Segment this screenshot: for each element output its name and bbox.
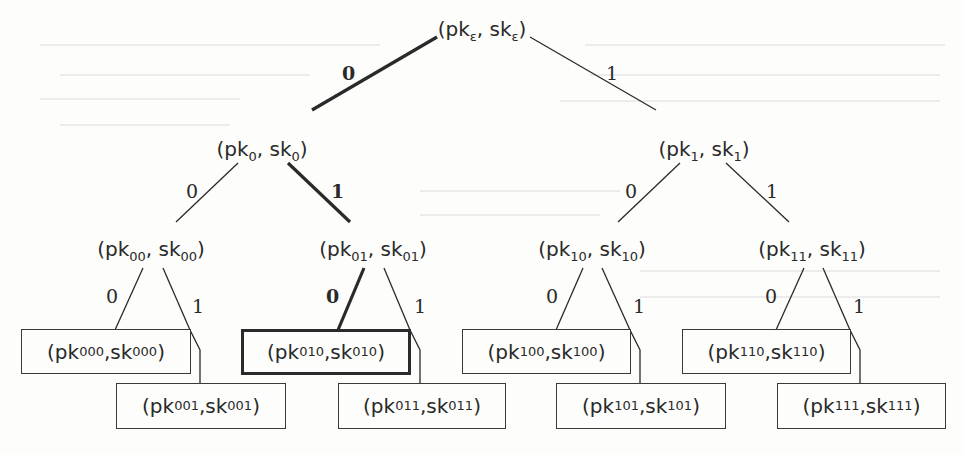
leaf-110: (pk110, sk110) [682, 329, 851, 374]
edge-10-100 [556, 268, 583, 330]
edge-10-101-tail [630, 330, 640, 383]
edge-label-root-1: 1 [606, 62, 618, 84]
edge-11-111 [823, 268, 850, 330]
edge-00-001-tail [190, 330, 200, 383]
edge-00-000 [115, 268, 143, 330]
edge-00-001 [163, 268, 190, 330]
leaf-011: (pk011, sk011) [338, 383, 506, 429]
edge-10-101 [602, 268, 630, 330]
node-0: (pk0, sk0) [216, 136, 307, 162]
edge-root-1 [530, 37, 656, 110]
edge-11-110 [776, 268, 804, 330]
edge-01-010 [338, 268, 364, 330]
leaf-111: (pk111, sk111) [777, 383, 946, 429]
edge-label-0-01: 1 [331, 180, 344, 202]
edge-label-root-0: 0 [342, 62, 355, 84]
node-00: (pk00, sk00) [97, 236, 205, 262]
edge-label-10-101: 1 [633, 295, 645, 317]
edge-label-11-110: 0 [765, 285, 777, 307]
edge-label-11-111: 1 [853, 295, 865, 317]
edge-label-00-000: 0 [106, 285, 118, 307]
node-root: (pkε, skε) [438, 16, 527, 42]
leaf-100: (pk100, sk100) [462, 329, 631, 374]
edge-label-0-00: 0 [186, 180, 198, 202]
node-1: (pk1, sk1) [658, 136, 749, 162]
edge-label-1-11: 1 [766, 180, 778, 202]
leaf-001: (pk001, sk001) [116, 383, 286, 429]
node-01: (pk01, sk01) [319, 236, 427, 262]
edge-1-11 [726, 163, 789, 222]
edge-label-01-011: 1 [414, 295, 426, 317]
node-10: (pk10, sk10) [538, 236, 646, 262]
edge-01-011-tail [410, 330, 420, 383]
leaf-000: (pk000, sk000) [21, 329, 191, 374]
leaf-101: (pk101, sk101) [556, 383, 726, 429]
edge-label-1-10: 0 [625, 180, 637, 202]
edge-label-01-010: 0 [326, 285, 339, 307]
leaf-010-highlighted: (pk010, sk010) [241, 329, 411, 375]
edge-label-10-100: 0 [546, 285, 558, 307]
edge-11-111-tail [850, 330, 860, 383]
node-11: (pk11, sk11) [758, 236, 866, 262]
edge-01-011 [384, 268, 410, 330]
edge-label-00-001: 1 [192, 295, 204, 317]
edge-root-0 [312, 37, 437, 110]
